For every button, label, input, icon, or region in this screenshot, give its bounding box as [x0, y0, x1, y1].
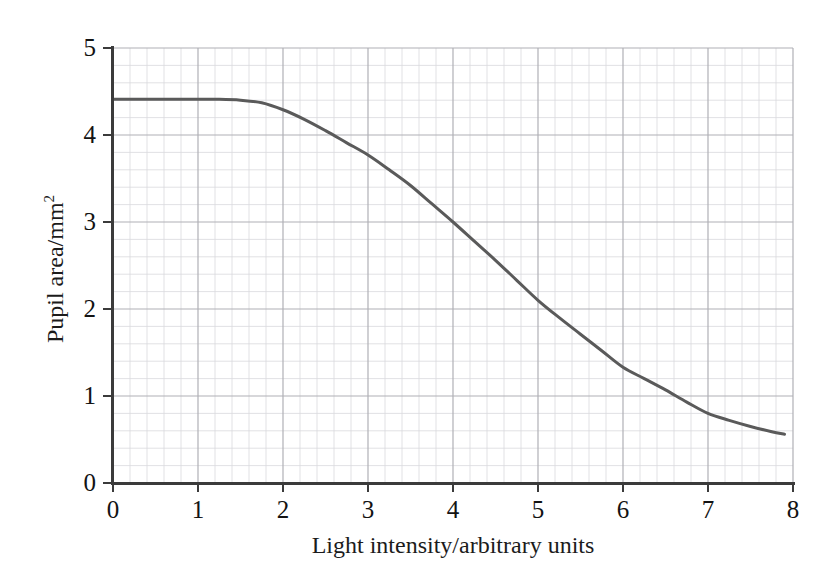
y-axis-tick: [103, 482, 112, 484]
x-axis-tick-label: 4: [433, 496, 473, 524]
y-axis-tick: [103, 308, 112, 310]
y-axis-label-superscript: 2: [41, 195, 57, 203]
x-axis-tick-label: 1: [178, 496, 218, 524]
data-curve: [113, 48, 793, 483]
x-axis-tick-label-text: 1: [192, 496, 205, 523]
x-axis-tick-label-text: 2: [277, 496, 290, 523]
x-axis-tick-label: 5: [518, 496, 558, 524]
y-axis-tick: [103, 395, 112, 397]
x-axis-tick-label-text: 7: [702, 496, 715, 523]
plot-area: [113, 48, 793, 483]
y-axis-label-text: Pupil area/mm: [42, 202, 68, 343]
y-axis-tick: [103, 134, 112, 136]
x-axis-tick: [197, 483, 199, 492]
y-axis-tick-label-text: 0: [56, 470, 96, 495]
x-axis-tick: [707, 483, 709, 492]
x-axis-tick-label-text: 0: [107, 496, 120, 523]
x-axis-tick-label: 7: [688, 496, 728, 524]
x-axis-tick-label: 8: [773, 496, 813, 524]
x-axis-tick: [452, 483, 454, 492]
x-axis-tick: [792, 483, 794, 492]
x-axis-tick: [622, 483, 624, 492]
y-axis-tick-label: 5: [52, 35, 96, 36]
x-axis-tick: [282, 483, 284, 492]
y-axis-tick-label: 0: [52, 470, 96, 471]
pupil-area-line-chart: 012345012345678 Light intensity/arbitrar…: [0, 0, 838, 581]
y-axis-tick: [103, 221, 112, 223]
x-axis-tick-label-text: 8: [787, 496, 800, 523]
x-axis-tick: [112, 483, 114, 492]
x-axis-label: Light intensity/arbitrary units: [113, 530, 793, 560]
x-axis-tick: [537, 483, 539, 492]
x-axis-tick-label: 3: [348, 496, 388, 524]
x-axis-tick-label: 6: [603, 496, 643, 524]
y-axis-line: [111, 46, 114, 485]
y-axis-tick-label-text: 5: [56, 35, 96, 60]
y-axis-label: Pupil area/mm2: [40, 89, 70, 449]
x-axis-tick-label-text: 4: [447, 496, 460, 523]
x-axis-tick-label-text: 5: [532, 496, 545, 523]
series-line-path: [113, 99, 785, 434]
x-axis-tick-label-text: 3: [362, 496, 375, 523]
x-axis-tick-label: 0: [93, 496, 133, 524]
x-axis-tick-label: 2: [263, 496, 303, 524]
x-axis-tick: [367, 483, 369, 492]
y-axis-tick: [103, 47, 112, 49]
x-axis-tick-label-text: 6: [617, 496, 630, 523]
